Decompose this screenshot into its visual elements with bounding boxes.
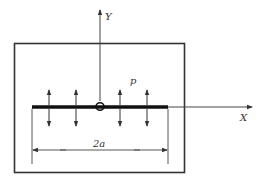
crack-length-label: 2a xyxy=(92,138,105,149)
crack-length-dimension xyxy=(32,109,168,164)
x-axis-label: X xyxy=(239,112,248,123)
y-axis: Y xyxy=(100,10,113,101)
x-axis: X xyxy=(168,107,252,123)
crack-diagram: Y X p 2a xyxy=(0,0,263,181)
y-axis-label: Y xyxy=(105,11,113,22)
pressure-label: p xyxy=(130,75,137,86)
